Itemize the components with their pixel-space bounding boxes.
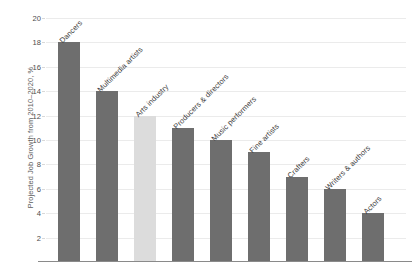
y-tick-mark [42,238,45,239]
y-tick-mark [42,67,45,68]
y-tick-mark [42,213,45,214]
y-tick-label: 14 [33,87,41,96]
y-tick-mark [42,18,45,19]
y-tick-label: 6 [37,184,41,193]
gridline: 16 [46,67,406,68]
category-label: Writers & authors [323,143,371,191]
category-label: Arts industry [133,82,170,119]
bar[interactable] [96,91,118,262]
category-label: Music performers [209,95,257,143]
y-tick-label: 2 [37,233,41,242]
category-label: Multimedia artists [95,45,144,94]
category-label: Fine artists [247,122,280,155]
bar[interactable] [134,116,156,262]
category-label: Producers & directors [171,72,230,131]
y-tick-label: 20 [33,14,41,23]
x-axis-line [38,261,412,262]
y-tick-mark [42,140,45,141]
category-label: Dancers [57,19,84,46]
bar[interactable] [172,128,194,262]
gridline: 18 [46,42,406,43]
y-tick-label: 8 [37,160,41,169]
y-tick-label: 4 [37,209,41,218]
y-tick-label: 16 [33,62,41,71]
gridline: 20 [46,18,406,19]
y-tick-label: 18 [33,38,41,47]
y-tick-label: 10 [33,136,41,145]
bar[interactable] [362,213,384,262]
bar[interactable] [210,140,232,262]
y-tick-label: 12 [33,111,41,120]
bar[interactable] [58,42,80,262]
y-tick-mark [42,164,45,165]
y-tick-mark [42,91,45,92]
plot-area: 2018161412108642 DancersMultimedia artis… [46,18,406,262]
bar-chart: Projected Job Growth from 2010–2020, % 2… [0,0,412,279]
bar[interactable] [324,189,346,262]
bar[interactable] [248,152,270,262]
y-tick-mark [42,116,45,117]
y-tick-mark [42,42,45,43]
bar[interactable] [286,177,308,262]
y-tick-mark [42,189,45,190]
